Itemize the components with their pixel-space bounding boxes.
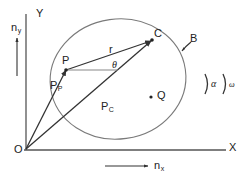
body-label-B: B (190, 33, 197, 44)
point-marker-P (64, 68, 68, 72)
unit-vector-x-label: nx (154, 160, 164, 172)
vector-position-C (26, 41, 151, 149)
unit-vector-y-label: ny (11, 22, 21, 34)
diagram-canvas: Y X O ny nx P C Q B r θ PP PC α ω (0, 0, 252, 183)
vector-label-position-C-subscript: C (108, 106, 114, 113)
vector-label-position-P-subscript: P (57, 85, 62, 92)
point-label-Q: Q (157, 90, 166, 101)
angular-velocity-label-omega: ω (229, 81, 235, 89)
unit-vector-y-subscript: y (17, 27, 21, 34)
angular-acceleration-label-alpha: α (211, 79, 216, 89)
x-axis-label: X (229, 142, 236, 153)
angle-label-theta: θ (112, 60, 117, 70)
vector-label-position-C: PC (101, 101, 114, 113)
alpha-arc-symbol (205, 74, 208, 94)
vector-label-r: r (109, 44, 113, 55)
omega-arc-symbol (223, 74, 226, 94)
body-outline-ellipse (42, 10, 193, 148)
y-axis-label: Y (36, 8, 43, 19)
origin-label: O (14, 144, 23, 155)
vector-label-position-P: PP (50, 80, 63, 92)
point-label-C: C (154, 28, 162, 39)
point-marker-Q (149, 95, 152, 98)
unit-vector-x-subscript: x (160, 165, 164, 172)
point-label-P: P (62, 55, 69, 66)
diagram-vector-graphics (0, 0, 252, 183)
